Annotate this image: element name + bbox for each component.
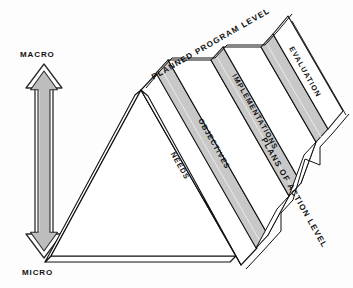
macro-micro-double-arrow [26,64,62,258]
diagram-svg: NEEDS OBJECTIVES IMPLEMENTATIONS [0,0,353,288]
diagram-canvas: MACRO MICRO N [0,0,353,288]
